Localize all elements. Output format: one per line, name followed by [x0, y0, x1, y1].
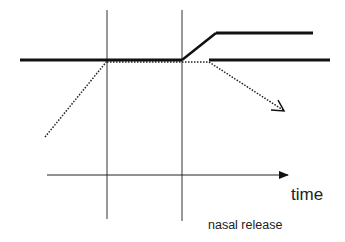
time-axis-label: time — [291, 185, 323, 204]
rise-line — [182, 33, 216, 60]
event-label: nasal release — [208, 218, 282, 232]
dotted-rise-left — [45, 61, 107, 137]
dotted-fall — [209, 62, 283, 110]
timing-diagram: time nasal release — [0, 0, 345, 242]
